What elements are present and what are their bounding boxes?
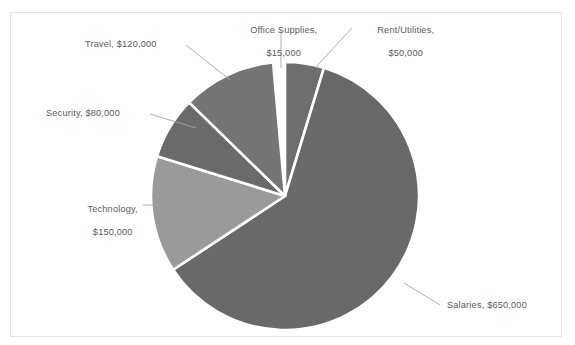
slice-label-security: Security, $80,000 <box>46 108 156 119</box>
slice-label-travel: Travel, $120,000 <box>85 39 195 50</box>
slice-label-technology-line2: $150,000 <box>93 227 133 237</box>
slice-label-technology: Technology, $150,000 <box>72 193 148 239</box>
slice-label-technology-line1: Technology, <box>87 204 137 214</box>
chart-title-clipped <box>0 0 575 11</box>
slice-label-salaries: Salaries, $650,000 <box>447 300 567 311</box>
chart-plot-area <box>10 12 562 337</box>
slice-label-rent-utilities: Rent/Utilities, $50,000 <box>345 14 461 60</box>
slice-label-rent-utilities-line1: Rent/Utilities, <box>377 25 434 35</box>
slice-label-office-supplies-line2: $15,000 <box>266 48 301 58</box>
slice-label-office-supplies-line1: Office Supplies, <box>250 25 317 35</box>
slice-label-rent-utilities-line2: $50,000 <box>388 48 423 58</box>
slice-label-office-supplies: Office Supplies, $15,000 <box>214 14 348 60</box>
